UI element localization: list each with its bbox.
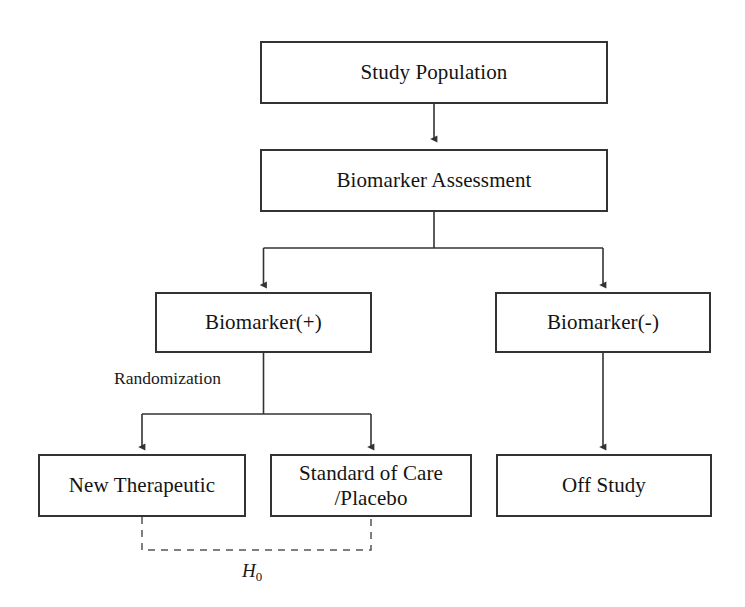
node-off-study-label: Off Study xyxy=(556,473,652,498)
node-new-therapeutic-label: New Therapeutic xyxy=(63,473,221,498)
edge-biomarker-assessment-split xyxy=(264,212,604,285)
node-study-population[interactable]: Study Population xyxy=(260,41,608,104)
node-study-population-label: Study Population xyxy=(355,60,514,85)
node-off-study[interactable]: Off Study xyxy=(496,454,712,517)
null-hypothesis-bracket xyxy=(142,517,371,550)
node-biomarker-negative[interactable]: Biomarker(-) xyxy=(495,292,711,353)
node-standard-of-care-line2: /Placebo xyxy=(299,486,443,511)
null-hypothesis-subscript: 0 xyxy=(256,569,262,584)
node-standard-of-care-label: Standard of Care /Placebo xyxy=(293,461,449,511)
null-hypothesis-label: H0 xyxy=(242,560,262,585)
null-hypothesis-symbol: H xyxy=(242,560,256,581)
node-biomarker-positive-label: Biomarker(+) xyxy=(199,310,328,335)
node-biomarker-assessment-label: Biomarker Assessment xyxy=(330,168,537,193)
node-biomarker-positive[interactable]: Biomarker(+) xyxy=(155,292,372,353)
node-biomarker-assessment[interactable]: Biomarker Assessment xyxy=(260,149,608,212)
node-standard-of-care[interactable]: Standard of Care /Placebo xyxy=(270,454,472,517)
edge-label-randomization: Randomization xyxy=(114,368,221,389)
node-new-therapeutic[interactable]: New Therapeutic xyxy=(38,454,246,517)
flowchart-canvas: Study Population Biomarker Assessment Bi… xyxy=(0,0,745,607)
node-biomarker-negative-label: Biomarker(-) xyxy=(541,310,665,335)
node-standard-of-care-line1: Standard of Care xyxy=(299,461,443,485)
